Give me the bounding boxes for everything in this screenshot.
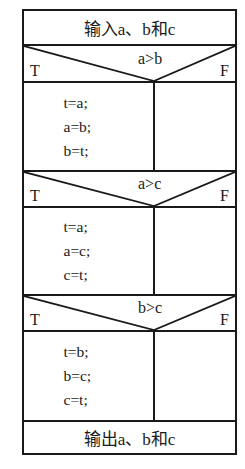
true-branch: t=a; a=b; b=t; xyxy=(24,83,155,170)
condition-label: a>b xyxy=(138,50,162,68)
input-block: 输入a、b和c xyxy=(24,11,235,46)
statement: c=t; xyxy=(64,263,114,287)
statement: a=b; xyxy=(64,115,114,139)
condition-label: a>c xyxy=(138,175,161,193)
statement: b=c; xyxy=(64,364,114,388)
false-label: F xyxy=(220,187,229,205)
statement: c=t; xyxy=(64,388,114,412)
decision-triangle-lines xyxy=(24,172,235,206)
false-label: F xyxy=(220,62,229,80)
decision-2: a>c T F xyxy=(24,172,235,208)
statement: t=b; xyxy=(64,340,114,364)
true-label: T xyxy=(30,62,40,80)
decision-1: a>b T F xyxy=(24,46,235,83)
true-label: T xyxy=(30,311,40,329)
statement: t=a; xyxy=(64,215,114,239)
false-branch xyxy=(155,83,235,170)
decision-triangle-lines xyxy=(24,296,235,330)
statement: b=t; xyxy=(64,139,114,163)
branch-body-2: t=a; a=c; c=t; xyxy=(24,208,235,296)
false-label: F xyxy=(220,311,229,329)
decision-3: b>c T F xyxy=(24,296,235,332)
condition-label: b>c xyxy=(138,299,162,317)
branch-body-1: t=a; a=b; b=t; xyxy=(24,83,235,172)
input-text: 输入a、b和c xyxy=(84,15,176,40)
true-branch: t=b; b=c; c=t; xyxy=(24,332,155,420)
output-text: 输出a、b和c xyxy=(84,425,176,450)
statement: t=a; xyxy=(64,91,114,115)
true-label: T xyxy=(30,187,40,205)
false-branch xyxy=(155,208,235,294)
ns-diagram: 输入a、b和c a>b T F t=a; a=b; b=t; a>c T F t… xyxy=(22,9,237,455)
output-block: 输出a、b和c xyxy=(24,420,235,453)
branch-body-3: t=b; b=c; c=t; xyxy=(24,332,235,420)
decision-triangle-lines xyxy=(24,46,235,81)
true-branch: t=a; a=c; c=t; xyxy=(24,208,155,294)
statement: a=c; xyxy=(64,239,114,263)
false-branch xyxy=(155,332,235,420)
